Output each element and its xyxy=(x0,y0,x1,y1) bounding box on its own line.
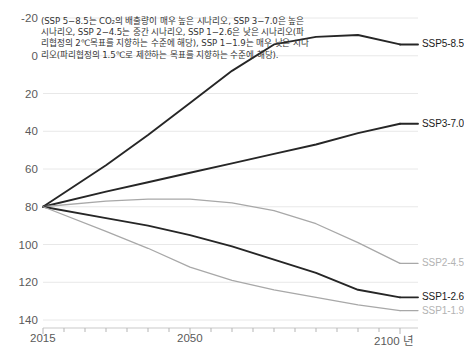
series-line-ssp1-1-9 xyxy=(43,207,400,311)
y-tick-label: -20 xyxy=(4,12,38,24)
y-tick-label: 100 xyxy=(4,239,38,251)
x-tick-label: 2050 xyxy=(177,332,203,344)
series-label-ssp1-1-9: SSP1-1.9 xyxy=(422,305,464,316)
scenario-description-annotation: (SSP 5−8.5는 CO₂의 배출량이 매우 높은 시나리오, SSP 3−… xyxy=(41,16,309,61)
y-axis: 140120100806040200-20 xyxy=(0,0,38,358)
series-label-ssp3-7-0: SSP3-7.0 xyxy=(422,118,464,129)
x-tick-label: 2100 년 xyxy=(374,332,414,348)
series-label-ssp5-8-5: SSP5-8.5 xyxy=(422,38,464,49)
y-tick-label: 40 xyxy=(4,125,38,137)
series-label-ssp2-4-5: SSP2-4.5 xyxy=(422,257,464,268)
y-tick-label: 60 xyxy=(4,163,38,175)
series-line-ssp2-4-5 xyxy=(43,199,400,263)
series-line-ssp3-7-0 xyxy=(43,124,400,207)
series-label-ssp1-2-6: SSP1-2.6 xyxy=(422,291,464,302)
x-tick-label: 2015 xyxy=(30,332,56,344)
y-tick-label: 120 xyxy=(4,276,38,288)
series-lines xyxy=(43,35,418,311)
y-tick-label: 20 xyxy=(4,88,38,100)
y-tick-label: 0 xyxy=(4,50,38,62)
y-tick-label: 80 xyxy=(4,201,38,213)
y-tick-label: 140 xyxy=(4,314,38,326)
x-axis: 201520502100 년 xyxy=(0,330,459,350)
series-line-ssp1-2-6 xyxy=(43,207,400,298)
